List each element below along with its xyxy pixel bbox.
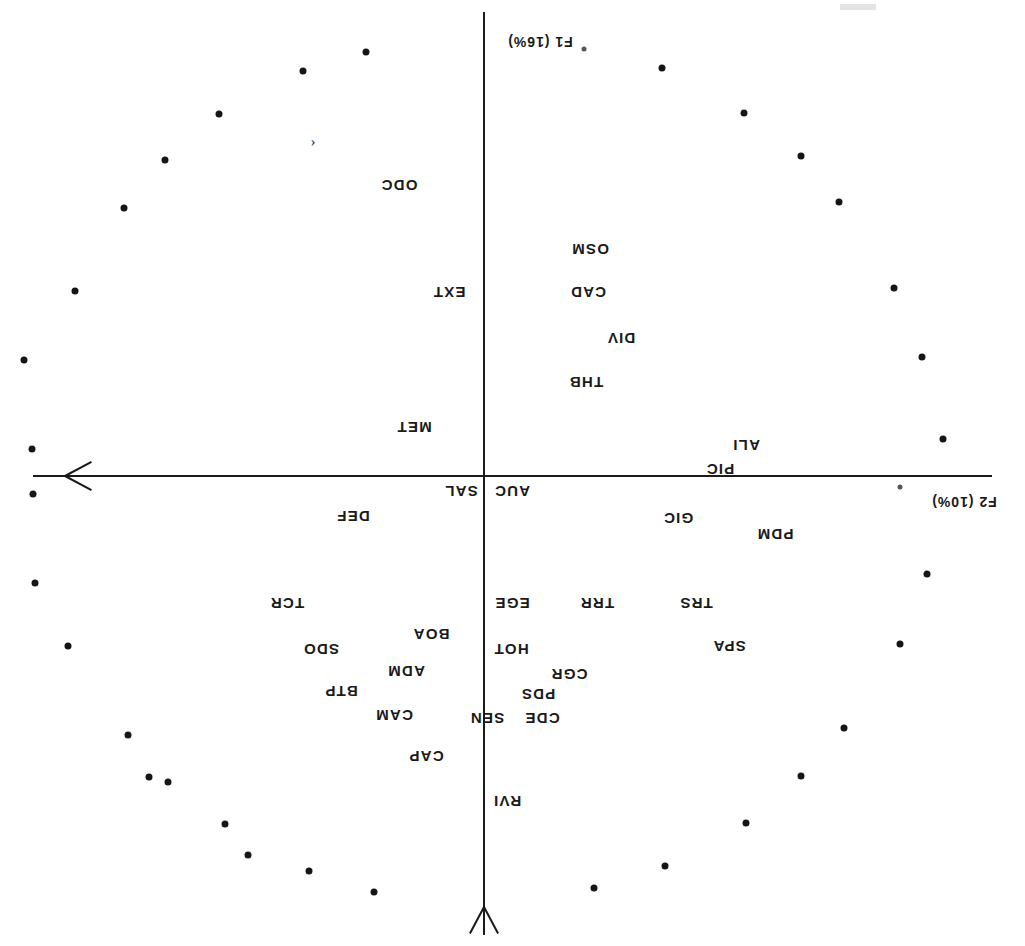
dust-speck-f2: [898, 485, 903, 490]
variable-label-pdm: PDM: [757, 526, 794, 543]
variable-label-thb: THB: [569, 374, 603, 391]
circle-perimeter-dot: [741, 110, 748, 117]
circle-perimeter-dot: [165, 779, 172, 786]
variable-label-tcr: TCR: [270, 595, 304, 612]
circle-perimeter-dot: [836, 199, 843, 206]
scan-artifact-glyph: ‹: [311, 135, 316, 152]
circle-perimeter-dot: [363, 49, 370, 56]
variable-label-spa: SPA: [712, 638, 745, 655]
variable-label-trr: TRR: [580, 595, 614, 612]
circle-perimeter-dot: [222, 821, 229, 828]
circle-perimeter-dot: [841, 725, 848, 732]
variable-label-ext: EXT: [433, 284, 466, 301]
variable-label-ege: EGE: [494, 595, 529, 612]
circle-perimeter-dot: [32, 580, 39, 587]
horizontal-axis-f2: [33, 475, 992, 477]
circle-perimeter-dot: [300, 68, 307, 75]
variable-label-btp: BTP: [324, 683, 358, 700]
variable-label-def: DEF: [336, 508, 370, 525]
variable-label-ali: ALI: [732, 437, 760, 454]
circle-perimeter-dot: [72, 288, 79, 295]
circle-perimeter-dot: [30, 491, 37, 498]
circle-perimeter-dot: [659, 65, 666, 72]
variable-label-cap: CAP: [408, 748, 443, 765]
variable-label-met: MET: [396, 419, 431, 436]
circle-perimeter-dot: [146, 774, 153, 781]
circle-perimeter-dot: [798, 153, 805, 160]
figure-page: F2 (10%) F1 (16%) ‹ RVICAPCDESENCAMPDSBT…: [0, 0, 1025, 946]
circle-perimeter-dot: [245, 852, 252, 859]
variable-label-gic: GIC: [663, 510, 693, 527]
circle-perimeter-dot: [919, 354, 926, 361]
circle-perimeter-dot: [65, 643, 72, 650]
circle-perimeter-dot: [798, 773, 805, 780]
variable-label-cde: CDE: [524, 710, 559, 727]
vertical-axis-arrowhead: [469, 907, 499, 937]
variable-label-div: DIV: [607, 330, 636, 347]
circle-perimeter-dot: [662, 863, 669, 870]
circle-perimeter-dot: [940, 436, 947, 443]
circle-perimeter-dot: [897, 641, 904, 648]
circle-perimeter-dot: [924, 571, 931, 578]
circle-perimeter-dot: [891, 285, 898, 292]
variable-label-sen: SEN: [470, 710, 504, 727]
variable-label-adm: ADM: [387, 663, 425, 680]
variable-label-sal: SAL: [444, 483, 478, 500]
variable-label-auc: AUC: [494, 483, 530, 500]
variable-label-cad: CAD: [570, 284, 606, 301]
variable-label-rvi: RVI: [493, 793, 521, 810]
axis-label-f1: F1 (16%): [507, 34, 573, 50]
circle-perimeter-dot: [29, 446, 36, 453]
variable-label-sdo: SDO: [303, 641, 339, 658]
circle-perimeter-dot: [21, 357, 28, 364]
pca-correlation-circle-plot: F2 (10%) F1 (16%) ‹ RVICAPCDESENCAMPDSBT…: [0, 0, 1025, 946]
vertical-axis-f1: [483, 12, 485, 935]
variable-label-pds: PDS: [521, 686, 555, 703]
variable-label-pic: PIC: [706, 461, 735, 478]
dust-speck-f1: [582, 47, 587, 52]
variable-label-odc: ODC: [381, 177, 418, 194]
variable-label-hot: HOT: [493, 641, 528, 658]
circle-perimeter-dot: [162, 157, 169, 164]
circle-perimeter-dot: [743, 820, 750, 827]
circle-perimeter-dot: [216, 111, 223, 118]
axis-label-f2: F2 (10%): [931, 494, 997, 510]
variable-label-cam: CAM: [375, 707, 413, 724]
circle-perimeter-dot: [121, 205, 128, 212]
variable-label-osm: OSM: [571, 241, 609, 258]
circle-perimeter-dot: [306, 868, 313, 875]
horizontal-axis-arrowhead: [65, 461, 95, 491]
variable-label-cgr: CGR: [551, 666, 588, 683]
circle-perimeter-dot: [125, 732, 132, 739]
variable-label-trs: TRS: [679, 595, 713, 612]
circle-perimeter-dot: [591, 885, 598, 892]
circle-perimeter-dot: [371, 889, 378, 896]
variable-label-boa: BOA: [413, 626, 450, 643]
